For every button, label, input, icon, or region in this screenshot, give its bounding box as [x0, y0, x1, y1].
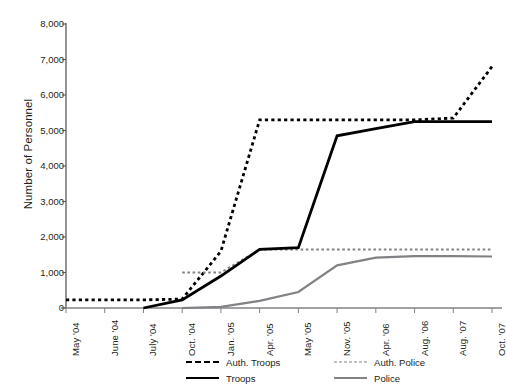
- x-axis-tick-label: Apr. '05: [264, 323, 275, 356]
- x-axis-tick-label: Oct. '07: [496, 323, 507, 356]
- x-axis-tick-label: Aug. '06: [419, 321, 430, 356]
- legend-row: Auth. TroopsAuth. Police: [186, 355, 476, 369]
- legend-label: Police: [374, 373, 400, 384]
- legend-swatch-icon: [186, 374, 219, 383]
- x-axis-tick-label: July '04: [147, 323, 158, 356]
- legend-item-troops[interactable]: Troops: [186, 373, 256, 384]
- x-axis-tick-label: Apr. '06: [380, 323, 391, 356]
- chart-legend: Auth. TroopsAuth. PoliceTroopsPolice: [186, 355, 476, 387]
- legend-item-auth-police[interactable]: Auth. Police: [334, 357, 425, 368]
- legend-label: Troops: [226, 373, 256, 384]
- x-axis-tick-label: June '04: [109, 320, 120, 356]
- x-axis-tick-label: Aug. '07: [457, 321, 468, 356]
- x-axis-tick-label: Nov. '05: [341, 321, 352, 356]
- legend-row: TroopsPolice: [186, 371, 476, 385]
- legend-swatch-icon: [334, 358, 367, 367]
- x-axis-tick-label: May '04: [70, 322, 81, 356]
- legend-label: Auth. Police: [374, 357, 425, 368]
- legend-item-auth-troops[interactable]: Auth. Troops: [186, 357, 280, 368]
- x-axis-tick-label: Jan. '05: [225, 322, 236, 356]
- legend-item-police[interactable]: Police: [334, 373, 400, 384]
- legend-label: Auth. Troops: [226, 357, 280, 368]
- x-axis-tick-label: May '05: [302, 322, 313, 356]
- legend-swatch-icon: [186, 358, 219, 367]
- legend-swatch-icon: [334, 374, 367, 383]
- x-axis-tick-label: Oct. '04: [186, 323, 197, 356]
